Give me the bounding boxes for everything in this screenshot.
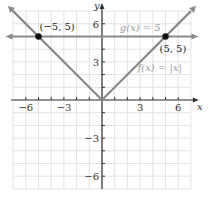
- series-g-arrowhead-left-icon: [5, 34, 12, 40]
- intersection-point-marker: [35, 33, 41, 39]
- x-tick-label: −6: [18, 102, 33, 113]
- x-tick-label: −3: [57, 102, 72, 113]
- y-tick-label: −6: [84, 171, 99, 182]
- y-tick-label: 6: [93, 19, 99, 30]
- x-tick-label: 3: [137, 102, 143, 113]
- intersection-point-marker: [162, 33, 168, 39]
- series-f-label: f(x) = |x|: [137, 62, 182, 74]
- y-tick-label: −3: [84, 133, 99, 144]
- series-g-arrowhead-right-icon: [192, 34, 199, 40]
- chart-svg: −6−336−6−336xyg(x) = 5f(x) = |x|(−5, 5)(…: [0, 0, 209, 197]
- y-tick-label: 3: [93, 57, 99, 68]
- chart: −6−336−6−336xyg(x) = 5f(x) = |x|(−5, 5)(…: [0, 0, 209, 197]
- point-annotation: (−5, 5): [40, 21, 75, 32]
- y-axis-arrow-icon: [100, 3, 105, 9]
- x-tick-label: 6: [175, 102, 181, 113]
- series-g-label: g(x) = 5: [120, 22, 161, 33]
- x-axis-label: x: [197, 101, 203, 112]
- y-axis-label: y: [93, 0, 100, 11]
- point-annotation: (5, 5): [160, 43, 187, 54]
